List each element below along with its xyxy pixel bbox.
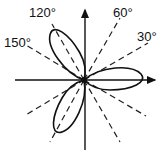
label-150: 150°: [4, 35, 31, 50]
ray-210: [24, 80, 84, 116]
petal-0: [84, 68, 143, 90]
polar-rose-diagram: 30° 60° 120° 150°: [0, 0, 168, 158]
ray-150: [26, 45, 84, 80]
origin-dot: [81, 77, 87, 83]
label-30: 30°: [137, 29, 157, 44]
petal-240: [46, 75, 95, 137]
label-120: 120°: [29, 5, 56, 20]
label-60: 60°: [113, 5, 133, 20]
